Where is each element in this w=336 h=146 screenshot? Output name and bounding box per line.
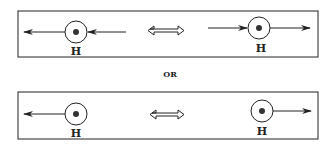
top-right-particle-label: H	[256, 42, 266, 55]
bottom-right-particle-label: H	[257, 125, 267, 138]
bottom-left-particle-label: H	[71, 127, 81, 140]
diagram-canvas: H H OR H H	[0, 0, 336, 146]
top-right-particle-dot	[256, 25, 262, 31]
top-panel-frame	[18, 11, 318, 57]
or-separator: OR	[163, 69, 177, 79]
bottom-left-particle-dot	[73, 111, 79, 117]
bottom-panel: H H	[18, 92, 318, 140]
bottom-right-particle-dot	[259, 108, 265, 114]
top-left-particle-label: H	[71, 45, 81, 58]
top-panel: H H	[18, 11, 318, 58]
top-double-arrow-icon	[148, 26, 184, 35]
top-left-particle-dot	[73, 29, 79, 35]
bottom-double-arrow-icon	[150, 110, 184, 119]
